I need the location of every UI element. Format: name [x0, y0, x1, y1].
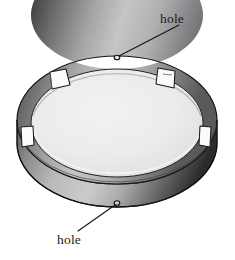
pan-body [17, 0, 217, 207]
leader-line-hole-bottom [78, 205, 115, 231]
figure-container: hole hole [0, 0, 235, 260]
label-hole-top: hole [160, 12, 184, 26]
tab-upper-right [156, 68, 175, 88]
tab-left [21, 126, 34, 147]
tab-upper-left [50, 69, 70, 89]
label-hole-bottom: hole [57, 233, 81, 247]
tab-right [199, 126, 211, 147]
pan-illustration [0, 0, 235, 260]
